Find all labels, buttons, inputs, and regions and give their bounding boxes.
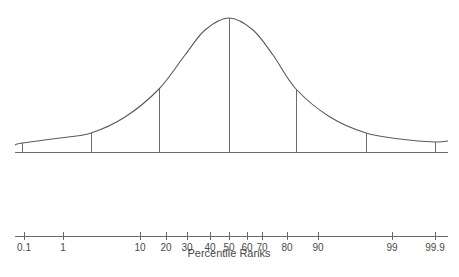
sd-marker-lines (23, 18, 436, 152)
percentile-axis: 0.111020304050607080909999.9 Percentile … (15, 232, 448, 259)
tick-label: 80 (281, 242, 293, 253)
distribution-group (15, 18, 448, 153)
tick-label: 99.9 (425, 242, 445, 253)
normal-curve (15, 18, 448, 145)
tick-label: 10 (134, 242, 146, 253)
tick-label: 99 (386, 242, 398, 253)
tick-label: 90 (312, 242, 324, 253)
tick-label: 20 (160, 242, 172, 253)
tick-label: 0.1 (17, 242, 31, 253)
normal-curve-chart: 0.111020304050607080909999.9 Percentile … (0, 0, 459, 277)
tick-label: 1 (60, 242, 66, 253)
axis-title: Percentile Ranks (187, 247, 271, 259)
